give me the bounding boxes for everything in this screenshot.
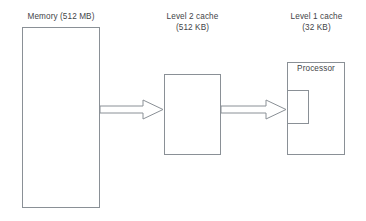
l2-cache-label-line2: (512 KB) [150, 23, 235, 34]
arrow-l2-cache-to-l1-cache [221, 99, 287, 121]
memory-label: Memory (512 MB) [22, 12, 100, 23]
l2-cache-label: Level 2 cache (512 KB) [150, 12, 235, 33]
l1-cache-box [287, 90, 309, 124]
memory-hierarchy-diagram: Memory (512 MB) Level 2 cache (512 KB) L… [0, 0, 366, 221]
memory-label-line1: Memory (512 MB) [22, 12, 100, 23]
l1-cache-label: Level 1 cache (32 KB) [274, 12, 359, 33]
l1-cache-label-line1: Level 1 cache [274, 12, 359, 23]
processor-label: Processor [287, 64, 345, 75]
l2-cache-label-line1: Level 2 cache [150, 12, 235, 23]
arrow-memory-to-l2-cache [100, 99, 164, 121]
l1-cache-label-line2: (32 KB) [274, 23, 359, 34]
memory-box [22, 27, 100, 208]
l2-cache-box [164, 74, 221, 155]
